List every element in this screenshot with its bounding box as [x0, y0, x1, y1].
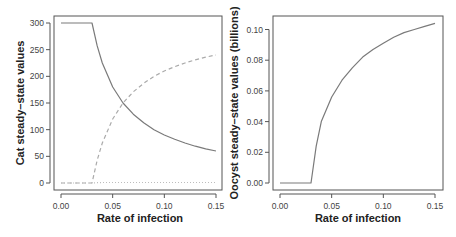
y-tick-label: 0.06 — [246, 86, 263, 96]
left-x-label: Rate of infection — [97, 212, 183, 224]
y-tick-label: 150 — [30, 98, 44, 108]
left-y-label: Cat steady–state values — [14, 41, 26, 166]
left-chart: 050100150200250300 0.000.050.100.15 Rate… — [14, 16, 225, 224]
y-tick-label: 0.00 — [246, 178, 263, 188]
series-line — [280, 23, 435, 183]
y-tick-label: 0.10 — [246, 25, 263, 35]
y-tick-label: 250 — [30, 45, 44, 55]
y-tick-label: 0.08 — [246, 55, 263, 65]
x-tick-label: 0.05 — [323, 201, 340, 211]
x-tick-label: 0.05 — [104, 201, 121, 211]
y-tick-label: 300 — [30, 18, 44, 28]
y-tick-label: 0.04 — [246, 117, 263, 127]
x-tick-label: 0.10 — [156, 201, 173, 211]
y-tick-label: 0 — [39, 178, 44, 188]
x-tick-label: 0.10 — [375, 201, 392, 211]
figure: 050100150200250300 0.000.050.100.15 Rate… — [0, 0, 456, 237]
right-series — [280, 23, 435, 183]
x-tick-label: 0.00 — [53, 201, 70, 211]
right-chart: 0.000.020.040.060.080.10 0.000.050.100.1… — [228, 6, 444, 224]
right-y-label: Oocyst steady–state values (billions) — [228, 6, 240, 200]
left-plot-frame — [54, 16, 222, 190]
x-tick-label: 0.15 — [208, 201, 225, 211]
series-line — [61, 23, 216, 151]
y-tick-label: 0.02 — [246, 147, 263, 157]
right-y-axis: 0.000.020.040.060.080.10 — [246, 25, 269, 189]
right-x-axis: 0.000.050.100.15 — [272, 194, 444, 211]
right-x-label: Rate of infection — [315, 212, 401, 224]
y-tick-label: 50 — [35, 151, 45, 161]
y-tick-label: 200 — [30, 71, 44, 81]
y-tick-label: 100 — [30, 125, 44, 135]
x-tick-label: 0.15 — [427, 201, 444, 211]
right-plot-frame — [273, 16, 443, 190]
left-y-axis: 050100150200250300 — [30, 18, 50, 188]
left-series — [61, 23, 216, 183]
x-tick-label: 0.00 — [272, 201, 289, 211]
left-x-axis: 0.000.050.100.15 — [53, 194, 225, 211]
